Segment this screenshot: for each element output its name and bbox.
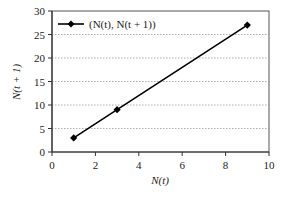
y-tick-label: 5	[40, 123, 46, 135]
x-tick-label: 4	[136, 159, 142, 171]
x-axis-ticks: 0246810	[49, 152, 275, 171]
x-tick-label: 8	[223, 159, 229, 171]
x-tick-label: 2	[93, 159, 99, 171]
y-tick-label: 25	[34, 29, 46, 41]
x-tick-label: 10	[264, 159, 276, 171]
y-tick-label: 30	[34, 5, 46, 17]
x-axis-label: N(t)	[150, 174, 169, 187]
y-axis-ticks: 051015202530	[34, 5, 52, 158]
y-axis-label: N(t + 1)	[10, 64, 23, 101]
y-tick-label: 0	[40, 146, 46, 158]
y-tick-label: 15	[34, 76, 46, 88]
x-tick-label: 0	[49, 159, 55, 171]
x-tick-label: 6	[179, 159, 185, 171]
y-tick-label: 20	[34, 52, 46, 64]
chart: 051015202530 0246810 (N(t), N(t + 1)) N(…	[0, 0, 287, 200]
y-tick-label: 10	[34, 99, 46, 111]
legend-label: (N(t), N(t + 1))	[89, 18, 156, 31]
